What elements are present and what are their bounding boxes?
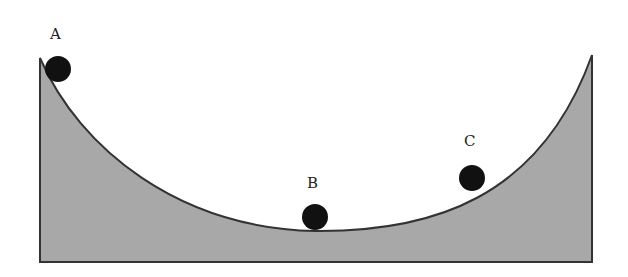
ball-b	[302, 204, 328, 230]
label-c: C	[464, 134, 475, 149]
valley-ground	[40, 55, 592, 262]
valley-track-svg	[0, 0, 628, 277]
ball-c	[459, 165, 485, 191]
label-a: A	[50, 27, 61, 42]
valley-diagram: A B C	[0, 0, 628, 277]
ball-a	[45, 56, 71, 82]
label-b: B	[307, 176, 318, 191]
